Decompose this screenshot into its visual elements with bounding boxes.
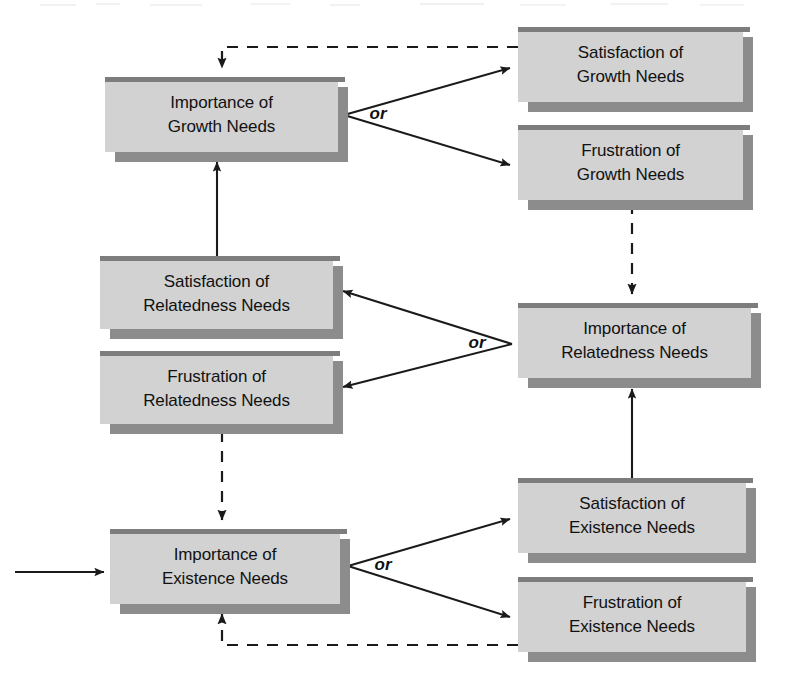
or-label-relatedness: or xyxy=(469,333,487,352)
node-satisfaction-growth[interactable]: Satisfaction of Growth Needs xyxy=(518,27,753,112)
node-top-bar xyxy=(518,125,750,130)
node-label-line2: Relatedness Needs xyxy=(561,343,708,362)
node-label-line1: Frustration of xyxy=(167,367,266,386)
node-body xyxy=(518,303,751,378)
node-label-line2: Existence Needs xyxy=(569,518,695,537)
or-label-text: or xyxy=(370,104,388,123)
node-satisfaction-relatedness[interactable]: Satisfaction of Relatedness Needs xyxy=(100,256,343,339)
node-top-bar xyxy=(518,478,753,483)
scan-artifacts xyxy=(40,3,744,6)
node-top-bar xyxy=(100,351,340,356)
or-label-text: or xyxy=(469,333,487,352)
node-top-bar xyxy=(100,256,340,261)
node-body xyxy=(100,256,333,329)
node-label-line2: Growth Needs xyxy=(577,165,684,184)
node-label-line2: Growth Needs xyxy=(168,117,275,136)
connection-existence-to-satisfaction xyxy=(348,519,510,566)
node-body xyxy=(105,77,338,152)
or-label-text: or xyxy=(375,555,393,574)
node-importance-growth[interactable]: Importance of Growth Needs xyxy=(105,77,348,162)
connection-relatedness-to-satisfaction xyxy=(343,291,512,344)
node-label-line2: Existence Needs xyxy=(162,569,288,588)
connection-relatedness-to-frustration xyxy=(343,344,512,387)
node-top-bar xyxy=(110,529,347,534)
node-importance-relatedness[interactable]: Importance of Relatedness Needs xyxy=(518,303,761,388)
connection-frustration-existence-feedback xyxy=(222,614,518,645)
node-label-line2: Relatedness Needs xyxy=(143,391,290,410)
node-top-bar xyxy=(518,577,753,582)
node-label-line1: Satisfaction of xyxy=(579,494,685,513)
diagram-canvas: Importance of Growth (top) --> Importanc… xyxy=(0,0,785,692)
connection-satisfaction-growth-feedback xyxy=(222,47,518,68)
node-top-bar xyxy=(518,303,758,308)
node-label-line1: Frustration of xyxy=(583,593,682,612)
node-body xyxy=(518,478,746,553)
node-importance-existence[interactable]: Importance of Existence Needs xyxy=(110,529,350,614)
erg-theory-diagram: Importance of Growth (top) --> Importanc… xyxy=(0,0,785,692)
node-frustration-growth[interactable]: Frustration of Growth Needs xyxy=(518,125,753,210)
node-satisfaction-existence[interactable]: Satisfaction of Existence Needs xyxy=(518,478,756,563)
node-label-line1: Importance of xyxy=(174,545,277,564)
node-body xyxy=(518,27,743,102)
node-frustration-existence[interactable]: Frustration of Existence Needs xyxy=(518,577,756,662)
node-label-line1: Importance of xyxy=(583,319,686,338)
node-label-line2: Existence Needs xyxy=(569,617,695,636)
or-label-existence: or xyxy=(375,555,393,574)
node-label-line1: Satisfaction of xyxy=(164,272,270,291)
node-body xyxy=(518,577,746,652)
connection-existence-to-frustration xyxy=(348,566,510,617)
node-frustration-relatedness[interactable]: Frustration of Relatedness Needs xyxy=(100,351,343,434)
node-label-line1: Frustration of xyxy=(581,141,680,160)
node-label-line1: Importance of xyxy=(170,93,273,112)
node-top-bar xyxy=(518,27,750,32)
node-body xyxy=(100,351,333,424)
or-label-growth: or xyxy=(370,104,388,123)
node-body xyxy=(110,529,340,604)
node-body xyxy=(518,125,743,200)
node-label-line1: Satisfaction of xyxy=(578,43,684,62)
node-label-line2: Relatedness Needs xyxy=(143,296,290,315)
node-top-bar xyxy=(105,77,345,82)
node-label-line2: Growth Needs xyxy=(577,67,684,86)
